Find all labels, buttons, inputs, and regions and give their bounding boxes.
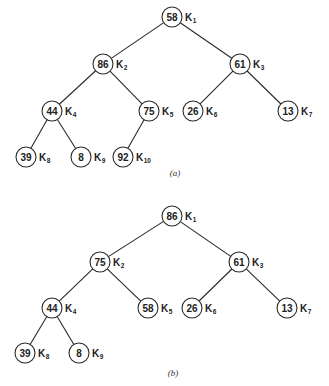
node-value: 8 [76,348,82,359]
tree-edge [180,23,232,59]
tree-node-k3: 61K3 [229,252,264,272]
node-value: 58 [166,12,178,23]
tree-edge [180,222,231,257]
node-value: 13 [281,303,293,314]
tree-edge [199,269,232,301]
nodes-layer: 58K186K261K344K475K526K613K739K88K992K10… [15,7,313,363]
tree-edge [111,23,163,59]
node-value: 75 [143,106,155,117]
node-value: 8 [78,152,84,163]
diagram-caption: (b) [168,368,179,378]
node-value: 44 [46,106,58,117]
node-key-label: K7 [301,106,313,119]
node-key-label: K4 [65,106,77,119]
node-key-label: K3 [253,59,265,72]
tree-node-k1: 58K1 [162,7,197,27]
node-key-label: K7 [300,303,312,316]
node-value: 86 [97,59,109,70]
tree-node-k8: 39K8 [15,343,50,363]
node-key-label: K5 [161,303,173,316]
node-value: 26 [186,303,198,314]
heap-diagram-canvas: 58K186K261K344K475K526K613K739K88K992K10… [0,0,329,386]
tree-edge [59,269,93,301]
tree-edge [31,120,47,149]
node-key-label: K1 [185,12,197,25]
tree-node-k1: 86K1 [162,206,197,226]
tree-edge [107,269,141,301]
node-value: 58 [142,303,154,314]
tree-node-k5: 75K5 [139,101,174,121]
node-key-label: K9 [92,348,104,361]
node-value: 61 [234,59,246,70]
tree-node-k7: 13K7 [278,101,313,121]
tree-node-k6: 26K6 [182,298,217,318]
node-key-label: K3 [252,257,264,270]
node-value: 26 [187,106,199,117]
tree-edge [247,71,281,104]
node-key-label: K10 [136,152,151,165]
tree-edge [246,269,280,301]
tree-node-k2: 86K2 [93,54,128,74]
captions-layer: (a)(b) [168,168,181,378]
node-key-label: K4 [65,303,77,316]
tree-edge [200,71,233,104]
tree-edge [57,119,75,148]
tree-node-k3: 61K3 [230,54,265,74]
tree-node-k6: 26K6 [183,101,218,121]
node-value: 39 [19,348,31,359]
node-value: 75 [94,257,106,268]
node-key-label: K6 [205,303,217,316]
tree-node-k4: 44K4 [42,101,77,121]
tree-edge [30,317,47,345]
node-value: 86 [166,211,178,222]
node-key-label: K5 [162,106,174,119]
node-key-label: K2 [113,257,125,270]
tree-node-k8: 39K8 [16,147,51,167]
tree-edge [108,221,163,256]
node-key-label: K8 [38,348,50,361]
tree-node-k9: 8K9 [69,343,104,363]
tree-edge [110,71,142,104]
node-value: 44 [46,303,58,314]
node-value: 39 [20,152,32,163]
tree-node-k5: 58K5 [138,298,173,318]
tree-edge [128,120,144,149]
node-value: 13 [282,106,294,117]
node-key-label: K2 [116,59,128,72]
tree-node-k10: 92K10 [113,147,151,167]
tree-edge [57,317,74,345]
tree-edge [59,71,95,104]
diagram-caption: (a) [170,168,181,178]
tree-node-k2: 75K2 [90,252,125,272]
tree-node-k7: 13K7 [277,298,312,318]
node-key-label: K8 [39,152,51,165]
node-key-label: K6 [206,106,218,119]
node-value: 61 [233,257,245,268]
node-value: 92 [117,152,129,163]
node-key-label: K9 [94,152,106,165]
tree-node-k9: 8K9 [71,147,106,167]
tree-node-k4: 44K4 [42,298,77,318]
node-key-label: K1 [185,211,197,224]
